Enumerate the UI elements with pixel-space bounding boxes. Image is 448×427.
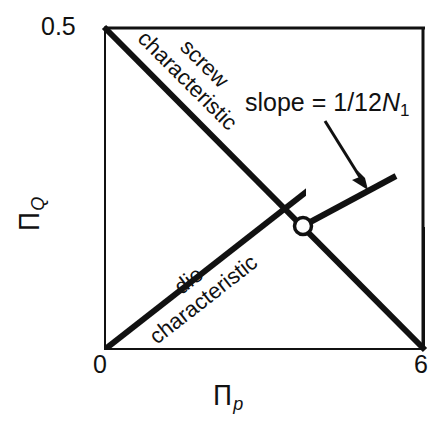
y-axis-title-subscript: Q xyxy=(28,197,48,212)
x-axis-max-tick-label: 6 xyxy=(414,352,428,377)
chart-figure: 0.5 0 6 Πp ΠQ screw characteristic die c… xyxy=(0,0,448,427)
x-axis-min-tick-label: 0 xyxy=(93,352,107,377)
x-axis-title-subscript: p xyxy=(232,394,243,414)
slope-annotation-label: slope = 1/12N1 xyxy=(245,90,409,119)
slope-annotation-symbol: N xyxy=(382,88,400,116)
x-axis-title: Πp xyxy=(213,383,244,413)
x-axis-title-symbol: Π xyxy=(213,381,233,411)
slope-annotation-subscript: 1 xyxy=(400,101,409,120)
y-axis-max-tick-label: 0.5 xyxy=(41,14,76,39)
y-axis-title-symbol: Π xyxy=(15,212,45,232)
slope-annotation-prefix: slope = 1/12 xyxy=(245,88,382,116)
y-axis-title: ΠQ xyxy=(17,197,47,232)
